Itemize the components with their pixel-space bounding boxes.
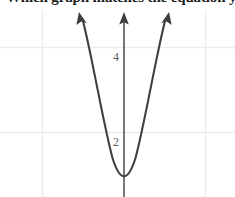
parabola-right-up-arrow-icon	[161, 12, 171, 25]
parabola-left-up-arrow-icon	[76, 12, 86, 25]
coordinate-plane: 4 2	[0, 10, 235, 197]
graph-question-screenshot: Which graph matches the equation y 4 2	[0, 0, 235, 197]
graph-svg	[0, 10, 235, 197]
question-prompt-text: Which graph matches the equation y	[6, 0, 235, 6]
y-axis-tick-label-2: 2	[105, 136, 119, 148]
y-axis-tick-label-4: 4	[105, 51, 119, 63]
